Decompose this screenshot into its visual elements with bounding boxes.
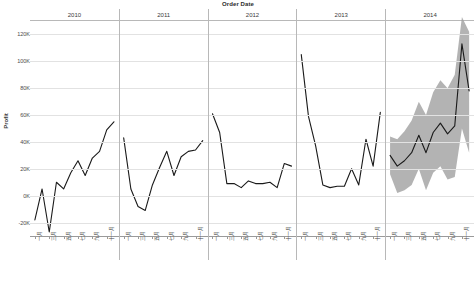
x-tick-label: 十一月 bbox=[464, 226, 469, 241]
x-panel-separator bbox=[296, 236, 297, 260]
y-tick-label: 60K bbox=[4, 112, 30, 118]
plot-area bbox=[30, 21, 474, 236]
year-header-band: 2010 2011 2012 2013 2014 bbox=[30, 9, 474, 21]
x-panel-separator bbox=[208, 236, 209, 260]
x-tick-label: 九月 bbox=[94, 231, 99, 241]
panel-separator bbox=[119, 9, 120, 242]
x-tick-label: 九月 bbox=[450, 231, 455, 241]
y-axis-ticks: 120K100K80K60K40K20K0K-20K bbox=[0, 0, 30, 282]
x-tick-label: 一月 bbox=[303, 231, 308, 241]
profit-line-2013 bbox=[301, 55, 380, 188]
x-tick-label: 九月 bbox=[272, 231, 277, 241]
x-tick-label: 一月 bbox=[37, 231, 42, 241]
y-tick-label: 0K bbox=[4, 193, 30, 199]
series-canvas bbox=[30, 21, 474, 236]
x-tick-label: 五月 bbox=[66, 231, 71, 241]
panel-separator bbox=[208, 9, 209, 242]
x-tick-label: 三月 bbox=[229, 231, 234, 241]
gridline bbox=[30, 61, 474, 62]
x-tick-label: 七月 bbox=[435, 231, 440, 241]
profit-line-2011 bbox=[124, 138, 203, 211]
gridline bbox=[30, 115, 474, 116]
y-tick-label: 20K bbox=[4, 166, 30, 172]
y-tick-label: 40K bbox=[4, 139, 30, 145]
x-tick-label: 七月 bbox=[346, 231, 351, 241]
x-tick-label: 一月 bbox=[214, 231, 219, 241]
x-tick-label: 五月 bbox=[243, 231, 248, 241]
x-tick-label: 九月 bbox=[361, 231, 366, 241]
x-tick-label: 五月 bbox=[332, 231, 337, 241]
x-tick-label: 九月 bbox=[183, 231, 188, 241]
profit-forecast-chart: Order Date 2010 2011 2012 2013 2014 Prof… bbox=[0, 0, 476, 282]
x-tick-label: 十一月 bbox=[375, 226, 380, 241]
x-tick-label: 十一月 bbox=[286, 226, 291, 241]
x-tick-label: 五月 bbox=[421, 231, 426, 241]
year-header-2010: 2010 bbox=[30, 9, 119, 21]
x-tick-label: 七月 bbox=[258, 231, 263, 241]
year-header-2011: 2011 bbox=[119, 9, 208, 21]
x-tick-label: 五月 bbox=[154, 231, 159, 241]
x-tick-label: 三月 bbox=[406, 231, 411, 241]
x-panel-separator bbox=[119, 236, 120, 260]
x-tick-label: 三月 bbox=[51, 231, 56, 241]
gridline bbox=[30, 34, 474, 35]
panel-separator bbox=[385, 9, 386, 242]
profit-line-2012 bbox=[212, 114, 291, 188]
x-tick-label: 三月 bbox=[140, 231, 145, 241]
y-tick-label: -20K bbox=[4, 220, 30, 226]
gridline bbox=[30, 223, 474, 224]
year-header-2013: 2013 bbox=[296, 9, 385, 21]
x-tick-label: 十一月 bbox=[198, 226, 203, 241]
y-tick-label: 100K bbox=[4, 58, 30, 64]
chart-title: Order Date bbox=[0, 1, 476, 7]
profit-line-2010 bbox=[35, 122, 114, 232]
forecast-confidence-band bbox=[390, 17, 469, 193]
gridline bbox=[30, 88, 474, 89]
x-tick-label: 一月 bbox=[126, 231, 131, 241]
x-tick-label: 三月 bbox=[318, 231, 323, 241]
gridline bbox=[30, 196, 474, 197]
x-tick-label: 一月 bbox=[392, 231, 397, 241]
gridline bbox=[30, 142, 474, 143]
year-header-2014: 2014 bbox=[385, 9, 474, 21]
x-tick-label: 七月 bbox=[80, 231, 85, 241]
gridline bbox=[30, 169, 474, 170]
y-tick-label: 120K bbox=[4, 31, 30, 37]
x-tick-label: 十一月 bbox=[109, 226, 114, 241]
panel-separator bbox=[296, 9, 297, 242]
x-panel-separator bbox=[385, 236, 386, 260]
x-tick-label: 七月 bbox=[169, 231, 174, 241]
year-header-2012: 2012 bbox=[208, 9, 297, 21]
y-tick-label: 80K bbox=[4, 85, 30, 91]
